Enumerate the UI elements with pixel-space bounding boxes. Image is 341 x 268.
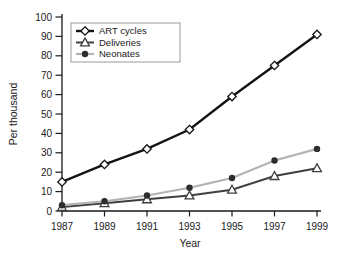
x-tick-label: 1987 (51, 221, 74, 232)
y-tick-label: 50 (41, 109, 53, 120)
circle-marker (101, 198, 107, 204)
legend-label-art-cycles: ART cycles (99, 25, 147, 36)
circle-marker (314, 146, 320, 152)
x-tick-label: 1991 (136, 221, 159, 232)
x-tick-label: 1999 (306, 221, 329, 232)
y-tick-label: 30 (41, 147, 53, 158)
y-tick-label: 10 (41, 186, 53, 197)
x-tick-label: 1995 (221, 221, 244, 232)
line-chart-canvas: 0102030405060708090100198719891991199319… (0, 0, 341, 268)
legend-label-deliveries: Deliveries (99, 37, 141, 48)
circle-marker (82, 51, 88, 57)
diamond-marker (100, 160, 108, 168)
diamond-marker (143, 145, 151, 153)
y-tick-label: 70 (41, 70, 53, 81)
legend: ART cyclesDeliveriesNeonates (71, 23, 180, 62)
circle-marker (186, 185, 192, 191)
y-tick-label: 20 (41, 167, 53, 178)
y-tick-label: 90 (41, 31, 53, 42)
y-axis-title: Per thousand (7, 83, 19, 146)
y-tick-label: 0 (46, 206, 52, 217)
y-tick-label: 80 (41, 50, 53, 61)
circle-marker (144, 192, 150, 198)
x-tick-label: 1997 (263, 221, 286, 232)
circle-marker (229, 175, 235, 181)
chart: 0102030405060708090100198719891991199319… (0, 0, 341, 268)
triangle-marker (313, 164, 322, 172)
x-tick-label: 1993 (178, 221, 201, 232)
circle-marker (271, 157, 277, 163)
y-tick-label: 60 (41, 89, 53, 100)
x-tick-label: 1989 (93, 221, 116, 232)
circle-marker (59, 202, 65, 208)
y-tick-label: 40 (41, 128, 53, 139)
legend-label-neonates: Neonates (99, 48, 140, 59)
x-axis-title: Year (179, 237, 201, 249)
y-tick-label: 100 (35, 12, 52, 23)
diamond-marker (58, 178, 66, 186)
